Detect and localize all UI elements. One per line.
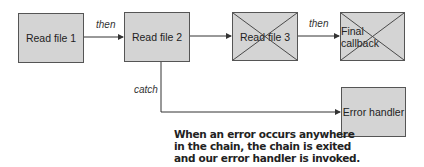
node-read-file-1: Read file 1 xyxy=(18,13,84,63)
edge-label-then-2: then xyxy=(309,18,328,29)
caption-line-1: When an error occurs anywhere xyxy=(174,128,360,140)
caption-line-2: in the chain, the chain is exited xyxy=(174,140,360,152)
cancelled-cross-icon xyxy=(233,13,297,60)
edge-label-catch: catch xyxy=(134,84,158,95)
caption-line-3: and our error handler is invoked. xyxy=(174,152,360,164)
node-read-file-3: Read file 3 xyxy=(232,12,298,61)
node-final-callback: Final callback xyxy=(340,12,405,61)
node-label: Read file 2 xyxy=(132,31,182,43)
node-label: Read file 1 xyxy=(26,32,76,44)
node-read-file-2: Read file 2 xyxy=(124,12,190,62)
cancelled-cross-icon xyxy=(341,13,404,60)
caption: When an error occurs anywhere in the cha… xyxy=(174,128,360,164)
edge-catch xyxy=(161,61,340,112)
node-label: Error handler xyxy=(343,106,404,118)
edge-label-then-1: then xyxy=(96,19,115,30)
